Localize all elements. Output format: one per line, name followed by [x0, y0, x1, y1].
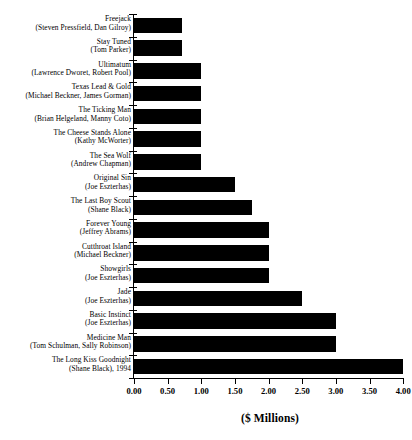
bar-row: Basic Instinct(Joe Eszterhas) — [0, 310, 412, 333]
bar-row: Medicine Man(Tom Schulman, Sally Robinso… — [0, 333, 412, 356]
x-axis-tick — [201, 378, 202, 384]
bar-row: The Long Kiss Goodnight(Shane Black), 19… — [0, 355, 412, 378]
plot-area: Freejack(Steven Pressfield, Dan Gilroy)S… — [0, 0, 412, 440]
y-axis-tick — [129, 14, 137, 15]
bar-category-label: Basic Instinct(Joe Eszterhas) — [0, 310, 131, 328]
bar-row: The Ticking Man(Brian Helgeland, Manny C… — [0, 105, 412, 128]
bar — [134, 268, 269, 284]
x-axis-tick — [403, 378, 404, 384]
bar — [134, 313, 336, 329]
bar — [134, 222, 269, 238]
bar — [134, 359, 403, 375]
bar-row: Ultimatum(Lawrence Dworet, Robert Pool) — [0, 60, 412, 83]
bar — [134, 336, 336, 352]
bar-label-authors: (Tom Schulman, Sally Robinson) — [0, 342, 131, 351]
y-axis-tick — [129, 151, 137, 152]
y-axis-tick — [129, 128, 137, 129]
x-axis-tick — [336, 378, 337, 384]
y-axis-tick — [129, 173, 137, 174]
bar-category-label: Ultimatum(Lawrence Dworet, Robert Pool) — [0, 60, 131, 78]
bar — [134, 131, 201, 147]
bar-category-label: The Cheese Stands Alone(Kathy McWorter) — [0, 128, 131, 146]
x-axis-title: ($ Millions) — [0, 412, 412, 424]
bar-row: The Sea Wolf(Andrew Chapman) — [0, 151, 412, 174]
y-axis-tick — [129, 310, 137, 311]
bar — [134, 109, 201, 125]
bar-label-authors: (Brian Helgeland, Manny Coto) — [0, 115, 131, 124]
x-axis-tick — [134, 378, 135, 384]
horizontal-bar-chart: Freejack(Steven Pressfield, Dan Gilroy)S… — [0, 0, 412, 440]
bar-row: Jade(Joe Eszterhas) — [0, 287, 412, 310]
bar — [134, 177, 235, 193]
bar-row: Texas Lead & Gold(Michael Beckner, James… — [0, 82, 412, 105]
bar — [134, 18, 182, 34]
bar — [134, 86, 201, 102]
bar-category-label: The Sea Wolf(Andrew Chapman) — [0, 151, 131, 169]
bar-label-authors: (Jeffrey Abrams) — [0, 228, 131, 237]
bar-category-label: Texas Lead & Gold(Michael Beckner, James… — [0, 82, 131, 100]
bar-label-authors: (Steven Pressfield, Dan Gilroy) — [0, 24, 131, 33]
bar-row: Showgirls(Joe Eszterhas) — [0, 264, 412, 287]
bar-label-authors: (Andrew Chapman) — [0, 160, 131, 169]
bar-label-authors: (Michael Beckner, James Gorman) — [0, 92, 131, 101]
y-axis-tick — [129, 196, 137, 197]
bar-label-authors: (Shane Black) — [0, 206, 131, 215]
y-axis-tick — [129, 82, 137, 83]
y-axis-tick — [129, 355, 137, 356]
bar-label-authors: (Joe Eszterhas) — [0, 183, 131, 192]
bar-category-label: Stay Tuned(Tom Parker) — [0, 37, 131, 55]
y-axis-tick — [129, 333, 137, 334]
x-axis-tick — [168, 378, 169, 384]
bar-row: Stay Tuned(Tom Parker) — [0, 37, 412, 60]
bar-label-authors: (Shane Black), 1994 — [0, 365, 131, 374]
y-axis-tick — [129, 242, 137, 243]
bar-category-label: The Ticking Man(Brian Helgeland, Manny C… — [0, 105, 131, 123]
x-axis-tick — [370, 378, 371, 384]
y-axis-tick — [129, 287, 137, 288]
bar — [134, 63, 201, 79]
y-axis-tick — [129, 105, 137, 106]
y-axis-tick — [129, 264, 137, 265]
y-axis-tick — [129, 378, 137, 379]
bar-label-authors: (Kathy McWorter) — [0, 137, 131, 146]
bar-label-authors: (Tom Parker) — [0, 46, 131, 55]
bar-row: The Cheese Stands Alone(Kathy McWorter) — [0, 128, 412, 151]
bar-row: Original Sin(Joe Eszterhas) — [0, 173, 412, 196]
x-axis-tick — [235, 378, 236, 384]
bar-category-label: The Long Kiss Goodnight(Shane Black), 19… — [0, 355, 131, 373]
bar — [134, 245, 269, 261]
bar-category-label: Freejack(Steven Pressfield, Dan Gilroy) — [0, 14, 131, 32]
bar-row: The Last Boy Scout(Shane Black) — [0, 196, 412, 219]
bar-label-authors: (Joe Eszterhas) — [0, 319, 131, 328]
bar-category-label: Forever Young(Jeffrey Abrams) — [0, 219, 131, 237]
bar-category-label: Showgirls(Joe Eszterhas) — [0, 264, 131, 282]
bar-label-authors: (Joe Eszterhas) — [0, 297, 131, 306]
bar-row: Cutthroat Island(Michael Beckner) — [0, 242, 412, 265]
bar-category-label: Cutthroat Island(Michael Beckner) — [0, 242, 131, 260]
y-axis-tick — [129, 219, 137, 220]
bar-row: Forever Young(Jeffrey Abrams) — [0, 219, 412, 242]
bar-category-label: The Last Boy Scout(Shane Black) — [0, 196, 131, 214]
x-axis-tick-label: 4.00 — [383, 386, 412, 396]
bar-row: Freejack(Steven Pressfield, Dan Gilroy) — [0, 14, 412, 37]
y-axis-tick — [129, 37, 137, 38]
bar-label-authors: (Lawrence Dworet, Robert Pool) — [0, 69, 131, 78]
x-axis-tick — [269, 378, 270, 384]
x-axis-title-text: ($ Millions) — [113, 412, 299, 424]
bar — [134, 40, 182, 56]
bar-category-label: Original Sin(Joe Eszterhas) — [0, 173, 131, 191]
bar-category-label: Jade(Joe Eszterhas) — [0, 287, 131, 305]
bar — [134, 200, 252, 216]
bar — [134, 154, 201, 170]
y-axis-tick — [129, 60, 137, 61]
bar-label-authors: (Joe Eszterhas) — [0, 274, 131, 283]
bar-label-authors: (Michael Beckner) — [0, 251, 131, 260]
bar — [134, 291, 302, 307]
x-axis-tick — [302, 378, 303, 384]
bar-category-label: Medicine Man(Tom Schulman, Sally Robinso… — [0, 333, 131, 351]
